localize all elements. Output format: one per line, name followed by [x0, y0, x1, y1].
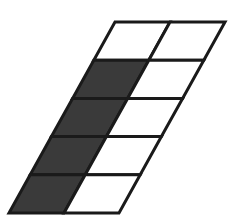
grid-cells-layer — [9, 22, 225, 213]
figure-container — [0, 0, 238, 221]
parallelogram-grid — [0, 0, 238, 221]
